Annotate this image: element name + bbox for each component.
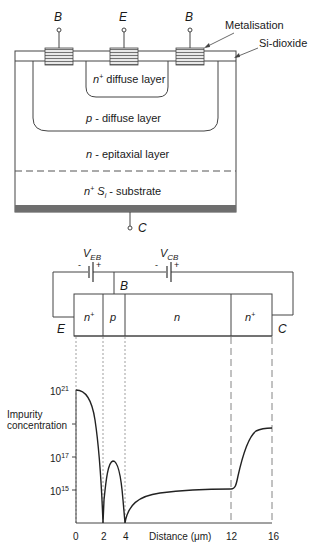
- emitter-terminal-icon: [122, 28, 126, 32]
- region-collector-n-plus: n+: [245, 311, 255, 323]
- x-tick-16: 16: [268, 531, 280, 542]
- veb-minus: -: [78, 260, 81, 270]
- y-tick-1e15: 1015: [50, 485, 69, 497]
- impurity-plot: 1021 1017 1015 Impurity Impurity concent…: [7, 337, 280, 542]
- vcb-minus: -: [155, 260, 158, 270]
- y-tick-1e21: 1021: [50, 385, 69, 397]
- base-left-terminal-icon: [57, 28, 61, 32]
- label-metalisation: Metalisation: [225, 19, 284, 31]
- label-n-plus-diffuse: n+ diffuse layer: [93, 73, 166, 85]
- base-right-terminal-icon: [188, 28, 192, 32]
- base-right-pad: [176, 48, 204, 65]
- x-axis-label: Distance (μm): [149, 531, 211, 542]
- label-collector-node: C: [278, 322, 287, 336]
- label-base-left: B: [54, 10, 62, 24]
- label-substrate: n+ Si - substrate: [84, 185, 161, 199]
- label-p-diffuse: p - diffuse layer: [85, 112, 161, 124]
- metalisation-arrow-icon: [206, 33, 234, 47]
- collector-terminal-icon: [128, 226, 132, 230]
- bias-circuit: VEB - + VCB - + B E C n+ p n n+: [53, 247, 293, 336]
- collector-metal-band: [15, 205, 236, 212]
- y-axis-label-line1: Impurity: [7, 409, 43, 420]
- base-left-pad: [45, 48, 73, 65]
- label-n-epitaxial: n - epitaxial layer: [86, 148, 169, 160]
- region-emitter-n-plus: n+: [84, 311, 94, 323]
- label-base-node: B: [120, 279, 128, 293]
- emitter-pad: [110, 48, 138, 65]
- y-axis-label-line2: concentration: [7, 420, 67, 431]
- impurity-curve: [76, 390, 272, 523]
- x-tick-0: 0: [73, 531, 79, 542]
- bjt-diagram: B E B C Metalisation Si-dioxide n+ diffu…: [0, 0, 311, 556]
- label-emitter: E: [119, 10, 128, 24]
- x-tick-2: 2: [101, 531, 107, 542]
- label-emitter-node: E: [57, 322, 66, 336]
- device-bar: [74, 294, 272, 336]
- x-tick-12: 12: [226, 531, 238, 542]
- region-collector-n: n: [174, 311, 180, 323]
- x-tick-4: 4: [123, 531, 129, 542]
- vcb-plus: +: [174, 260, 179, 270]
- label-base-right: B: [185, 10, 193, 24]
- veb-plus: +: [96, 260, 101, 270]
- label-si-dioxide: Si-dioxide: [259, 37, 307, 49]
- cross-section: B E B C Metalisation Si-dioxide n+ diffu…: [15, 10, 307, 235]
- y-tick-1e17: 1017: [50, 452, 69, 464]
- region-base-p: p: [109, 311, 116, 323]
- label-collector: C: [138, 221, 147, 235]
